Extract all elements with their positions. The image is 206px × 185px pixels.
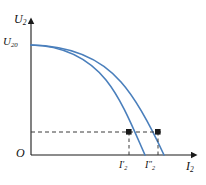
x-axis-label-subscript: 2: [190, 165, 194, 174]
tick-second-subscript: 2: [152, 164, 155, 171]
x-axis-label: I2: [186, 160, 194, 174]
y-intercept-label: U20: [3, 36, 18, 49]
y-intercept-subscript: 20: [11, 41, 18, 48]
x-tick-label-i2-doubleprime: I″2: [145, 160, 155, 171]
origin-label: O: [16, 147, 25, 159]
y-intercept-symbol: U: [3, 35, 11, 47]
operating-point-2: [155, 129, 161, 135]
curve-inner: [31, 45, 145, 155]
external-characteristic-figure: U2 U20 O I2 I′2 I″2: [0, 0, 206, 185]
curve-outer: [31, 45, 164, 155]
y-axis-label-subscript: 2: [23, 18, 27, 27]
x-tick-label-i2-prime: I′2: [119, 160, 127, 171]
operating-point-1: [126, 129, 132, 135]
y-axis-label-symbol: U: [14, 12, 23, 26]
y-axis-label: U2: [14, 13, 26, 27]
tick-first-subscript: 2: [124, 164, 127, 171]
plot-canvas: [0, 0, 206, 185]
